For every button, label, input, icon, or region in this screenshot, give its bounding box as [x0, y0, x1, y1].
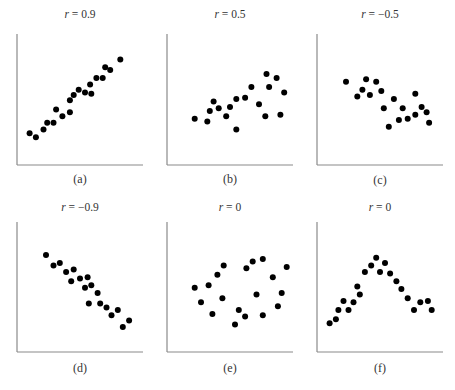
data-point [82, 89, 88, 95]
data-point [381, 105, 387, 111]
data-point [104, 305, 110, 311]
data-point [411, 307, 417, 313]
data-point [378, 88, 384, 94]
data-point [85, 274, 91, 280]
data-point [400, 105, 406, 111]
data-point [256, 101, 262, 107]
data-point [51, 263, 57, 269]
data-point [351, 299, 357, 305]
data-point [93, 75, 99, 81]
scatter-panel-e: r = 0 (e) [165, 193, 315, 378]
data-point [274, 75, 280, 81]
data-point [211, 99, 217, 105]
data-point [333, 316, 339, 322]
data-point [67, 97, 73, 103]
scatter-plot [165, 0, 315, 185]
data-point [429, 307, 435, 313]
data-point [405, 295, 411, 301]
data-point [270, 274, 276, 280]
data-point [393, 278, 399, 284]
data-point [109, 312, 115, 318]
data-point [243, 265, 249, 271]
data-point [117, 56, 123, 62]
data-point [354, 93, 360, 99]
data-point [275, 303, 281, 309]
data-point [115, 307, 121, 313]
data-point [95, 290, 101, 296]
data-point [44, 120, 50, 126]
data-point [382, 260, 388, 266]
data-point [120, 324, 126, 330]
data-point [386, 124, 392, 130]
data-point [357, 291, 363, 297]
data-point [88, 91, 94, 97]
data-point [363, 76, 369, 82]
data-point [419, 104, 425, 110]
data-point [232, 322, 238, 328]
data-point [373, 79, 379, 85]
data-point [63, 269, 69, 275]
data-point [67, 109, 73, 115]
scatter-panel-a: r = 0.9 (a) [15, 0, 165, 185]
data-point [242, 314, 248, 320]
scatter-panel-b: r = 0.5 (b) [165, 0, 315, 185]
data-point [279, 290, 285, 296]
data-point [221, 263, 227, 269]
data-point [391, 96, 397, 102]
data-point [377, 269, 383, 275]
data-point [396, 117, 402, 123]
data-point [335, 307, 341, 313]
panel-caption: (a) [15, 172, 145, 187]
data-point [343, 79, 349, 85]
data-point [341, 298, 347, 304]
data-point [260, 256, 266, 262]
data-point [424, 109, 430, 115]
data-point [233, 96, 239, 102]
data-point [266, 84, 272, 90]
data-point [192, 116, 198, 122]
data-point [362, 269, 368, 275]
data-point [51, 120, 57, 126]
data-point [43, 252, 49, 258]
data-point [359, 87, 365, 93]
data-point [373, 255, 379, 261]
data-point [242, 95, 248, 101]
data-point [412, 91, 418, 97]
data-point [192, 285, 198, 291]
panel-caption: (f) [315, 361, 445, 376]
data-point [59, 113, 65, 119]
data-point [53, 107, 59, 113]
data-point [33, 134, 39, 140]
scatter-plot [315, 0, 455, 185]
data-point [227, 104, 233, 110]
scatter-panel-c: r = −0.5 (c) [315, 0, 455, 185]
data-point [248, 84, 254, 90]
data-point [354, 284, 360, 290]
data-point [87, 82, 93, 88]
data-point [398, 286, 404, 292]
data-point [260, 312, 266, 318]
data-point [126, 318, 132, 324]
data-point [367, 92, 373, 98]
data-point [219, 295, 225, 301]
data-point [254, 291, 260, 297]
data-point [100, 75, 106, 81]
data-point [57, 260, 63, 266]
data-point [214, 272, 220, 278]
scatter-plot [165, 193, 315, 378]
data-point [233, 126, 239, 132]
data-point [82, 285, 88, 291]
data-point [86, 301, 92, 307]
data-point [281, 89, 287, 95]
data-point [198, 299, 204, 305]
data-point [425, 298, 431, 304]
data-point [236, 307, 242, 313]
data-point [327, 320, 333, 326]
data-point [264, 71, 270, 77]
data-point [41, 126, 47, 132]
data-point [262, 113, 268, 119]
panel-caption: (c) [315, 173, 445, 188]
data-point [284, 264, 290, 270]
panel-caption: (b) [165, 172, 295, 187]
data-point [107, 67, 113, 73]
